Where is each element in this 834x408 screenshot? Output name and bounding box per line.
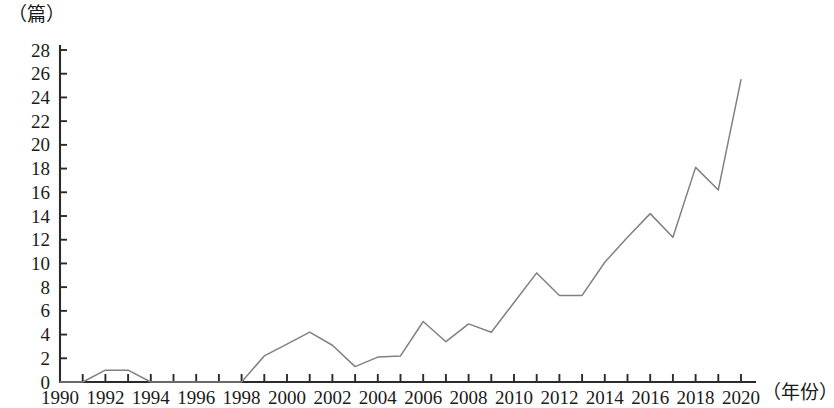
x-axis-tick-labels: 1990199219941996199820002002200420062008… <box>41 387 760 408</box>
x-axis-tick-label: 2004 <box>359 387 398 408</box>
y-axis-tick-label: 4 <box>41 324 51 345</box>
x-axis-tick-label: 2010 <box>495 387 533 408</box>
y-axis-tick-label: 26 <box>31 63 50 84</box>
y-axis-tick-label: 12 <box>31 229 50 250</box>
y-axis-tick-labels: 0246810121416182022242628 <box>31 40 51 393</box>
y-axis-tick-label: 22 <box>31 111 50 132</box>
y-axis-tick-label: 2 <box>41 348 51 369</box>
x-axis-tick-label: 1992 <box>86 387 124 408</box>
x-axis-tick-label: 2012 <box>540 387 578 408</box>
x-axis-tick-label: 1994 <box>132 387 171 408</box>
x-axis-tick-label: 2000 <box>268 387 306 408</box>
y-axis-tick-label: 18 <box>31 158 50 179</box>
x-axis-tick-label: 2006 <box>404 387 442 408</box>
x-axis-tick-marks <box>60 374 741 382</box>
y-axis-tick-label: 20 <box>31 134 50 155</box>
y-axis-tick-label: 28 <box>31 40 50 61</box>
x-axis-tick-label: 2016 <box>631 387 669 408</box>
data-series-line <box>60 80 741 382</box>
x-axis-tick-label: 2014 <box>586 387 625 408</box>
y-axis-tick-label: 6 <box>41 300 51 321</box>
x-axis-tick-label: 2008 <box>450 387 488 408</box>
x-axis-tick-label: 1996 <box>177 387 215 408</box>
y-axis-tick-label: 14 <box>31 206 51 227</box>
x-axis-tick-label: 2018 <box>677 387 715 408</box>
x-axis-tick-label: 1998 <box>223 387 261 408</box>
y-axis-tick-label: 24 <box>31 87 51 108</box>
chart-figure: （篇） （年份） 0246810121416182022242628 19901… <box>0 0 834 408</box>
x-axis-tick-label: 2020 <box>722 387 760 408</box>
y-axis-tick-label: 16 <box>31 182 50 203</box>
y-axis-tick-label: 10 <box>31 253 50 274</box>
x-axis-tick-label: 1990 <box>41 387 79 408</box>
x-axis-tick-label: 2002 <box>313 387 351 408</box>
line-chart-plot: 0246810121416182022242628 19901992199419… <box>0 0 834 408</box>
y-axis-tick-label: 8 <box>41 277 51 298</box>
